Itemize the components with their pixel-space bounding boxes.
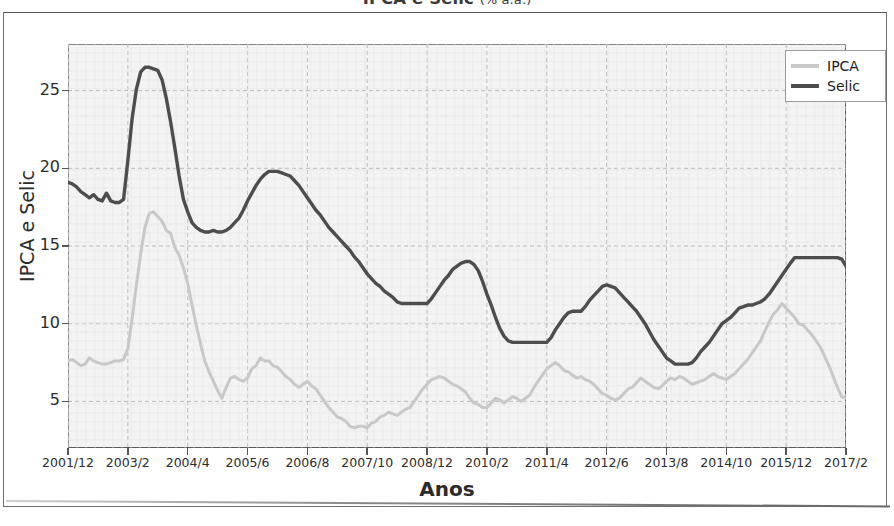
x-tick-label: 2015/12 [760, 455, 812, 470]
x-tick-label: 2001/12 [42, 455, 94, 470]
chart-title: IPCA e Selic (% a.a.) [0, 0, 894, 8]
x-tick-mark [546, 448, 548, 455]
chart-figure: IPCA e Selic (% a.a.) IPCA e Selic 51015… [0, 0, 894, 526]
x-tick-mark [845, 448, 847, 455]
plot-canvas [68, 44, 846, 448]
x-tick-mark [726, 448, 728, 455]
y-tick-label: 5 [8, 390, 60, 409]
x-tick-label: 2010/2 [465, 455, 509, 470]
y-tick-mark [62, 168, 69, 170]
x-tick-label: 2003/2 [106, 455, 150, 470]
x-tick-label: 2012/6 [585, 455, 629, 470]
legend-label-ipca: IPCA [827, 58, 859, 74]
y-tick-label: 10 [8, 313, 60, 332]
x-tick-mark [785, 448, 787, 455]
x-tick-label: 2006/8 [285, 455, 329, 470]
legend-item-ipca[interactable]: IPCA [791, 56, 879, 76]
y-axis-label: IPCA e Selic [16, 116, 38, 336]
x-tick-mark [67, 448, 69, 455]
legend-swatch-ipca [791, 64, 819, 68]
x-tick-label: 2005/6 [226, 455, 270, 470]
legend-label-selic: Selic [827, 78, 860, 94]
chart-title-main: IPCA e Selic [363, 0, 474, 8]
chart-legend: IPCA Selic [785, 50, 886, 102]
x-tick-label: 2014/10 [700, 455, 752, 470]
x-tick-mark [366, 448, 368, 455]
x-axis-label: Anos [0, 477, 894, 501]
y-tick-label: 15 [8, 235, 60, 254]
legend-swatch-selic [791, 84, 819, 88]
x-tick-label: 2004/4 [166, 455, 210, 470]
x-tick-mark [127, 448, 129, 455]
y-tick-mark [62, 90, 69, 92]
x-tick-mark [247, 448, 249, 455]
x-tick-mark [426, 448, 428, 455]
x-tick-mark [187, 448, 189, 455]
x-tick-label: 2011/4 [525, 455, 569, 470]
y-tick-label: 25 [8, 80, 60, 99]
page-root: IPCA e Selic (% a.a.) IPCA e Selic 51015… [0, 0, 894, 526]
x-tick-label: 2013/8 [644, 455, 688, 470]
chart-title-unit: (% a.a.) [480, 0, 532, 7]
x-tick-mark [666, 448, 668, 455]
x-tick-mark [307, 448, 309, 455]
x-tick-mark [606, 448, 608, 455]
x-tick-label: 2007/10 [341, 455, 393, 470]
x-tick-mark [486, 448, 488, 455]
y-tick-mark [62, 401, 69, 403]
x-tick-label: 2008/12 [401, 455, 453, 470]
legend-item-selic[interactable]: Selic [791, 76, 879, 96]
x-tick-label: 2017/2 [824, 455, 868, 470]
y-tick-mark [62, 245, 69, 247]
y-tick-label: 20 [8, 157, 60, 176]
y-tick-mark [62, 323, 69, 325]
